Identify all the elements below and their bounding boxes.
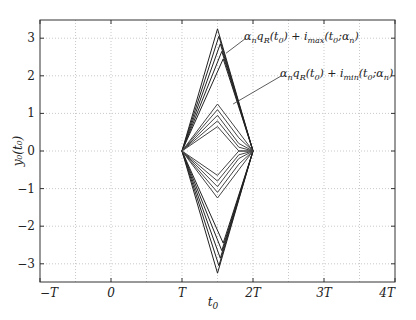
grid-lines: [40, 20, 395, 282]
x-tick-label: −T: [40, 286, 59, 300]
x-tick-label: 4T: [378, 286, 396, 300]
axis-ticks: −T0T2T3T4T3210−1−2−3: [17, 20, 396, 300]
annotation-max: αnqR(t0) + imax(t0;αn): [244, 30, 359, 45]
y-tick-label: 3: [27, 31, 35, 45]
x-tick-label: 0: [107, 286, 115, 300]
y-axis-label: y₀(t₀): [11, 135, 25, 167]
annotation-pointer: [233, 76, 281, 104]
x-axis-label: t0: [208, 295, 219, 311]
y-tick-label: −2: [17, 219, 35, 233]
y-tick-label: 0: [27, 144, 35, 158]
x-tick-label: T: [178, 286, 187, 300]
y-tick-label: 2: [27, 69, 35, 83]
annotation-min: αnqR(t0) + imin(t0;αn): [280, 67, 393, 82]
annotation-pointer: [226, 38, 246, 53]
annotations: αnqR(t0) + imax(t0;αn)αnqR(t0) + imin(t0…: [226, 30, 393, 104]
chart: −T0T2T3T4T3210−1−2−3 αnqR(t0) + imax(t0;…: [0, 0, 416, 320]
y-tick-label: −3: [17, 257, 35, 271]
y-tick-label: −1: [17, 182, 35, 196]
x-tick-label: 2T: [244, 286, 262, 300]
x-tick-label: 3T: [316, 286, 333, 300]
y-tick-label: 1: [27, 106, 35, 120]
